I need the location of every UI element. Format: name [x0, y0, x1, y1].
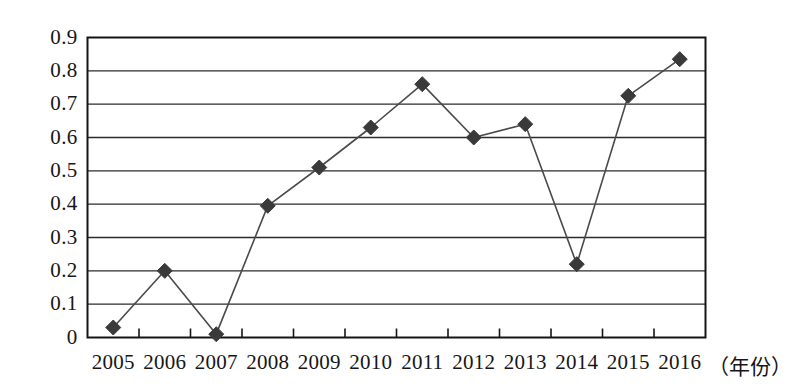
y-axis-tick-label: 0.2: [50, 258, 77, 283]
y-axis-tick-label: 0.6: [50, 125, 77, 150]
data-point-marker: [621, 88, 636, 103]
y-axis-tick-label: 0.3: [50, 225, 77, 250]
y-axis-tick-label: 0.7: [50, 91, 77, 116]
x-axis-tick-label: 2016: [649, 350, 711, 375]
x-axis-title: （年份）: [708, 350, 792, 380]
y-axis-tick-label: 0.5: [50, 158, 77, 183]
data-point-marker: [672, 52, 687, 67]
data-point-marker: [518, 117, 533, 132]
data-point-marker: [312, 160, 327, 175]
y-axis-tick-label: 0.4: [50, 191, 77, 216]
chart-canvas: [0, 0, 806, 388]
data-point-marker: [569, 257, 584, 272]
data-point-marker: [260, 198, 275, 213]
line-chart-figure: 0.90.80.70.60.50.40.30.20.10 20052006200…: [0, 0, 806, 388]
data-series-line: [113, 59, 680, 334]
y-axis-tick-label: 0.8: [50, 58, 77, 83]
plot-area-border: [88, 38, 706, 338]
y-axis-tick-label: 0: [67, 325, 78, 350]
y-axis-tick-label: 0.9: [50, 25, 77, 50]
y-axis-tick-label: 0.1: [50, 291, 77, 316]
data-point-markers: [106, 52, 688, 342]
